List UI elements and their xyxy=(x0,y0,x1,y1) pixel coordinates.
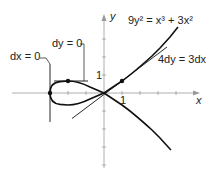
y-tick-label-1: 1 xyxy=(96,69,102,81)
x-axis-label: x xyxy=(195,94,202,106)
tangent-point xyxy=(120,79,124,83)
dy-zero-label: dy = 0 xyxy=(52,37,82,49)
dx-leader-line xyxy=(40,58,50,64)
equation-label: 9y² = x³ + 3x² xyxy=(128,14,193,26)
y-axis-arrow-icon xyxy=(102,14,107,21)
y-axis-label: y xyxy=(109,10,117,22)
curve-branch-lower xyxy=(50,93,171,150)
curve-diagram: 9y² = x³ + 3x² 4dy = 3dx dx = 0 dy = 0 x… xyxy=(0,0,210,175)
tangent-line xyxy=(72,47,167,119)
vertical-tangent-point xyxy=(48,91,52,95)
x-tick-label-1: 1 xyxy=(120,94,126,106)
dy-leader-line xyxy=(80,44,84,81)
tangent-equation-label: 4dy = 3dx xyxy=(158,53,207,65)
dx-zero-label: dx = 0 xyxy=(10,50,40,62)
horizontal-tangent-point xyxy=(66,79,70,83)
